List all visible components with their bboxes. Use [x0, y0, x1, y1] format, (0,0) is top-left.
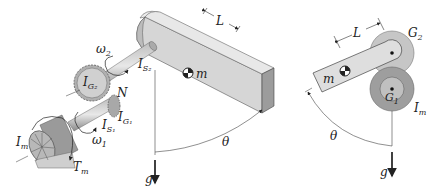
- center-of-mass-icon: [183, 68, 193, 78]
- length-label: L: [215, 14, 224, 28]
- theta-arc: [155, 110, 262, 152]
- length-label-right: L: [352, 26, 361, 40]
- gravity-label: g: [145, 172, 153, 186]
- beam-body: [137, 11, 274, 113]
- left-figure: m L IG₂ ω2 IS₂ N IG₁ IS₁: [15, 8, 274, 186]
- mass-label: m: [196, 67, 207, 81]
- right-figure: m L G2 G1 Im g θ: [305, 18, 427, 179]
- im-label-right: Im: [413, 101, 427, 117]
- g2-label: G2: [408, 26, 423, 42]
- pendulum-gear-diagram: m L IG₂ ω2 IS₂ N IG₁ IS₁: [0, 0, 437, 194]
- is1-label: IS₁: [101, 118, 115, 134]
- ig1-label: IG₁: [117, 110, 132, 126]
- theta-label: θ: [222, 135, 230, 149]
- is2-label: IS₂: [137, 57, 151, 73]
- theta-label-right: θ: [330, 129, 338, 143]
- omega1-label: ω1: [92, 133, 107, 149]
- mass-label-right: m: [323, 72, 334, 86]
- center-of-mass-icon-right: [340, 66, 350, 76]
- omega2-label: ω2: [96, 42, 111, 58]
- gravity-label-right: g: [380, 165, 388, 179]
- tm-label: Tm: [73, 160, 89, 176]
- diagram-canvas: m L IG₂ ω2 IS₂ N IG₁ IS₁: [0, 0, 437, 194]
- im-label-left: Im: [15, 135, 29, 151]
